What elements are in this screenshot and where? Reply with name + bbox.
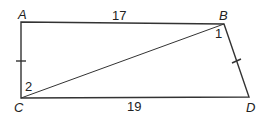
side-ab-length: 17 (112, 8, 126, 23)
diagonal-cb (21, 24, 224, 98)
angle-2-label: 2 (25, 79, 32, 94)
angle-1-label: 1 (215, 26, 222, 41)
vertex-label-d: D (246, 100, 255, 115)
quadrilateral-diagram: A B C D 17 19 1 2 (0, 0, 268, 131)
vertex-label-b: B (219, 8, 228, 23)
vertex-label-c: C (14, 100, 24, 115)
vertex-label-a: A (17, 7, 27, 22)
side-cd-length: 19 (127, 99, 141, 114)
